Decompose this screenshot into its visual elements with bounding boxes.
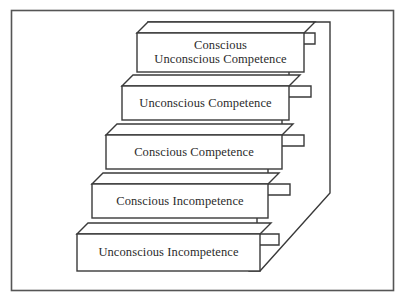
- step-1-top-face: [137, 22, 315, 33]
- step-4: [92, 173, 279, 218]
- staircase-diagram: [0, 0, 408, 306]
- step-1-front-face: [137, 33, 304, 72]
- step-1: [137, 22, 315, 72]
- step-2-front-face: [122, 86, 289, 120]
- step-5-top-face: [77, 223, 271, 234]
- step-2-top-face: [122, 75, 300, 86]
- step-3-top-face: [106, 124, 293, 135]
- step-5-front-face: [77, 234, 260, 271]
- step-5: [77, 223, 271, 271]
- step-3: [106, 124, 293, 169]
- step-4-top-face: [92, 173, 279, 184]
- step-3-front-face: [106, 135, 282, 169]
- diagram-canvas: Conscious Unconscious Competence Unconsc…: [0, 0, 408, 306]
- step-2: [122, 75, 300, 120]
- step-4-front-face: [92, 184, 268, 218]
